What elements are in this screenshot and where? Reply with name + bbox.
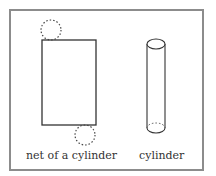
net-caption: net of a cylinder (26, 150, 117, 162)
net-top-circle (41, 20, 61, 40)
net-bottom-circle (75, 125, 95, 145)
cylinder-top-ellipse (147, 39, 165, 49)
cylinder-caption: cylinder (139, 150, 184, 162)
net-rectangle (42, 40, 96, 125)
cylinder-bottom-back-arc (147, 123, 165, 128)
cylinder-3d (147, 39, 165, 133)
cylinder-net (41, 20, 96, 145)
cylinder-bottom-front-arc (147, 128, 165, 133)
